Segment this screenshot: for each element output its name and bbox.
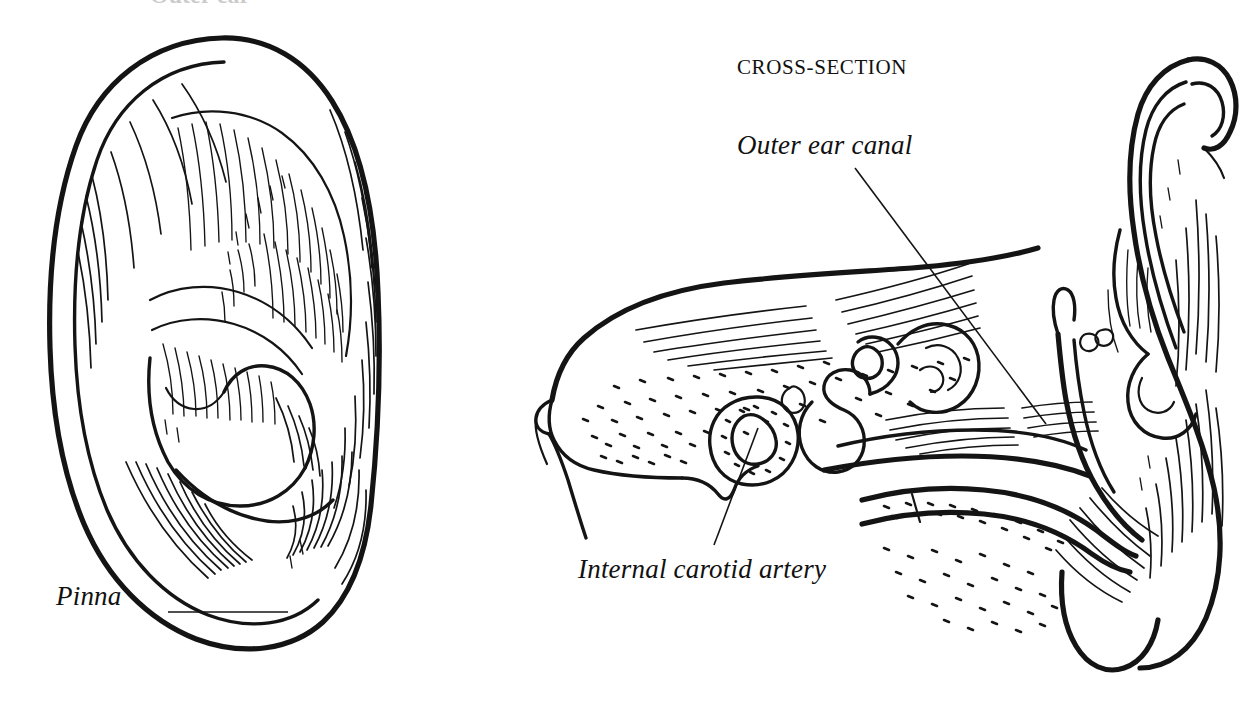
- antihelix-section-ridge-inner: [1074, 340, 1114, 492]
- upper-surface-striation: [636, 306, 832, 370]
- helix-fold-inner: [1192, 83, 1224, 136]
- helix-outer-edge: [50, 38, 380, 649]
- concha-section-wall: [1114, 230, 1148, 354]
- antihelix-spike: [1053, 288, 1075, 334]
- figure-root: Outer ear CROSS-SECTION Outer ear canal …: [0, 0, 1256, 724]
- styloid-tail-lower: [549, 434, 586, 538]
- ear-canal-floor: [824, 456, 1090, 476]
- ear-anatomy-artwork: [0, 0, 1256, 724]
- upper-right-striation: [836, 264, 980, 352]
- internal-carotid-artery-label: Internal carotid artery: [578, 556, 826, 583]
- mandibular-fossa-notch: [1062, 572, 1158, 670]
- antihelix-crus: [150, 287, 312, 348]
- petrous-bone-upper-contour: [552, 248, 1038, 400]
- concha-section-curl-inner: [1139, 378, 1174, 413]
- concha-upper-wall: [152, 319, 302, 374]
- tympanic-scroll-outer: [898, 324, 979, 413]
- helix-fold-tip: [1204, 148, 1224, 178]
- outer-ear-canal-label: Outer ear canal: [737, 132, 912, 159]
- cross-section-heading: CROSS-SECTION: [737, 57, 907, 78]
- middle-ear-cavity: [799, 370, 870, 473]
- pinna-drawing: [50, 38, 380, 649]
- section-texture-ticks: [1140, 160, 1180, 490]
- cut-off-heading: Outer ear: [150, 0, 250, 7]
- ossicle-ring: [852, 347, 882, 379]
- lobule-hatching: [126, 462, 252, 578]
- base-plate-tick: [912, 494, 920, 522]
- outer-ear-canal-leader-line: [855, 168, 1046, 424]
- pinna-label: Pinna: [56, 583, 122, 610]
- mastoid-aircell-stipple: [884, 548, 1057, 632]
- concha-hatching: [163, 344, 275, 424]
- cochlea-turn: [920, 367, 943, 392]
- antihelix-hatching: [222, 234, 342, 362]
- petrous-bone-lower-left: [549, 400, 682, 478]
- small-foramen-left: [782, 387, 805, 413]
- sectioned-pinna-hatching: [1146, 200, 1223, 578]
